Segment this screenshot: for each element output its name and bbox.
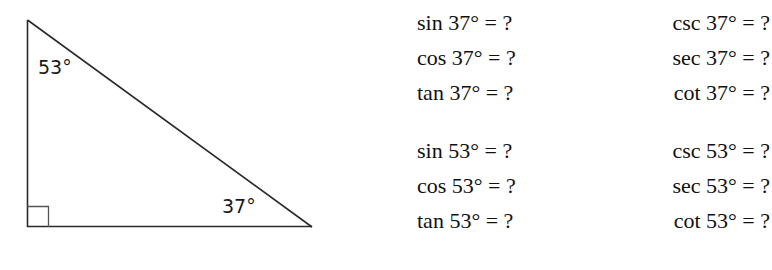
equation-sin-53: sin 53° = ? bbox=[417, 136, 567, 166]
right-angle-marker-icon bbox=[28, 207, 49, 228]
equation-cos-53: cos 53° = ? bbox=[417, 171, 567, 201]
equation-row: cos 53° = ? sec 53° = ? bbox=[400, 171, 772, 206]
triangle-drawing bbox=[0, 0, 340, 270]
equation-cot-53: cot 53° = ? bbox=[600, 206, 772, 236]
equations-panel: sin 37° = ? csc 37° = ? cos 37° = ? sec … bbox=[400, 0, 772, 270]
equation-row: tan 37° = ? cot 37° = ? bbox=[400, 78, 772, 113]
equation-row: cos 37° = ? sec 37° = ? bbox=[400, 43, 772, 78]
equation-row: tan 53° = ? cot 53° = ? bbox=[400, 206, 772, 241]
equation-csc-37: csc 37° = ? bbox=[600, 8, 772, 38]
equation-row: sin 37° = ? csc 37° = ? bbox=[400, 8, 772, 43]
angle-label-53: 53° bbox=[38, 58, 72, 77]
triangle-figure: 53° 37° bbox=[0, 0, 340, 270]
equation-row: sin 53° = ? csc 53° = ? bbox=[400, 136, 772, 171]
equation-group-53: sin 53° = ? csc 53° = ? cos 53° = ? sec … bbox=[400, 136, 772, 241]
triangle-hypotenuse bbox=[28, 20, 313, 227]
equation-group-37: sin 37° = ? csc 37° = ? cos 37° = ? sec … bbox=[400, 8, 772, 113]
equation-sec-37: sec 37° = ? bbox=[600, 43, 772, 73]
equation-sin-37: sin 37° = ? bbox=[417, 8, 567, 38]
equation-csc-53: csc 53° = ? bbox=[600, 136, 772, 166]
equation-tan-53: tan 53° = ? bbox=[417, 206, 567, 236]
angle-label-37: 37° bbox=[222, 197, 256, 216]
equation-tan-37: tan 37° = ? bbox=[417, 78, 567, 108]
equation-cos-37: cos 37° = ? bbox=[417, 43, 567, 73]
equation-cot-37: cot 37° = ? bbox=[600, 78, 772, 108]
equation-sec-53: sec 53° = ? bbox=[600, 171, 772, 201]
